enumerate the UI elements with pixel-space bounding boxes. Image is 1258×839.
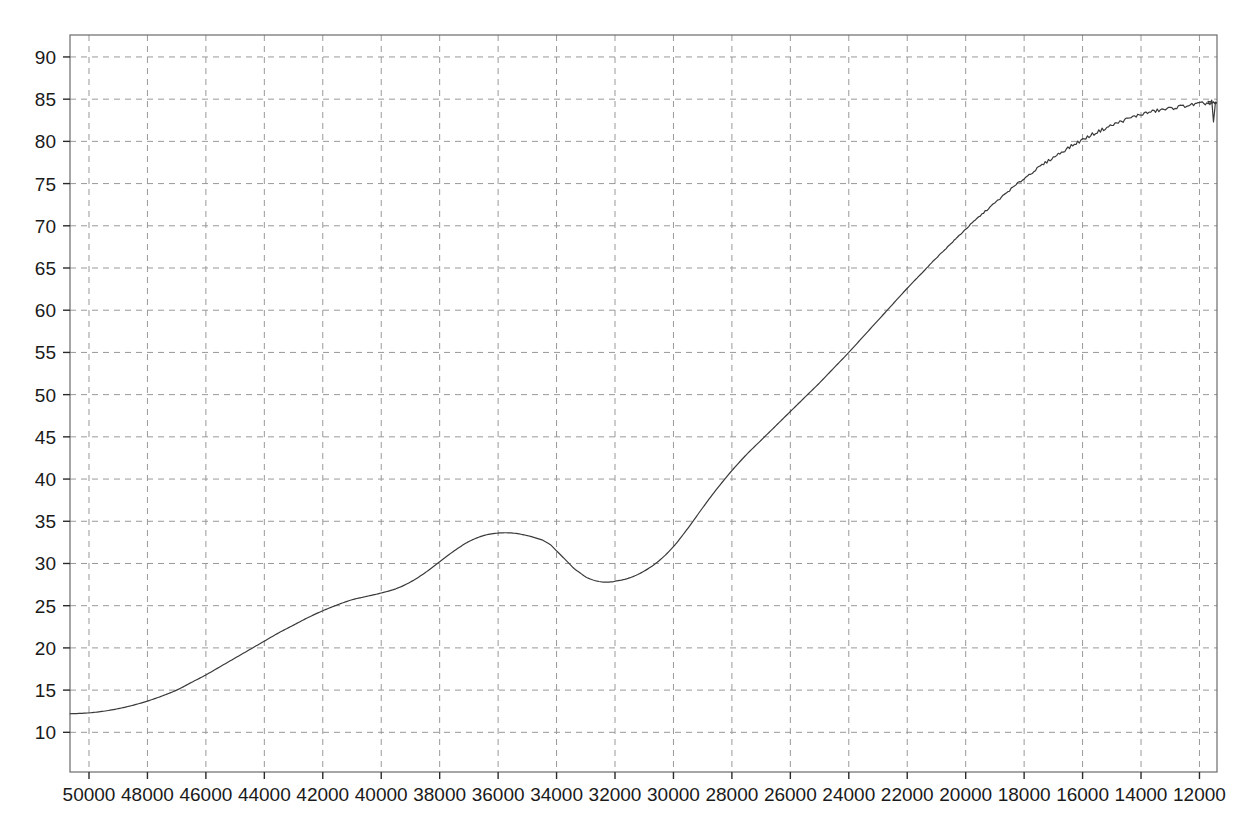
- x-axis-tick-label: 22000: [881, 784, 934, 805]
- y-axis-tick-label: 70: [35, 216, 56, 237]
- y-axis-tick-label: 45: [35, 427, 56, 448]
- y-axis-tick-label: 55: [35, 342, 56, 363]
- y-axis-tick-label: 25: [35, 596, 56, 617]
- x-axis-tick-label: 38000: [413, 784, 466, 805]
- x-axis-tick-label: 30000: [647, 784, 700, 805]
- y-axis-tick-label: 20: [35, 638, 56, 659]
- y-axis-tick-labels: 1015202530354045505560657075808590: [35, 47, 56, 743]
- y-axis-tick-label: 85: [35, 89, 56, 110]
- x-axis-tick-label: 50000: [63, 784, 116, 805]
- spectrum-chart: 1015202530354045505560657075808590 50000…: [0, 0, 1258, 839]
- y-axis-tick-label: 10: [35, 722, 56, 743]
- y-axis-tick-label: 35: [35, 511, 56, 532]
- y-axis-tick-label: 80: [35, 131, 56, 152]
- x-axis-tick-label: 36000: [472, 784, 525, 805]
- x-axis-tick-label: 48000: [121, 784, 174, 805]
- x-axis-tick-label: 18000: [998, 784, 1051, 805]
- x-axis-tick-label: 24000: [822, 784, 875, 805]
- y-axis-tick-label: 90: [35, 47, 56, 68]
- y-axis-tick-label: 75: [35, 174, 56, 195]
- x-axis-tick-label: 40000: [355, 784, 408, 805]
- x-axis-tick-label: 32000: [589, 784, 642, 805]
- y-axis-tick-label: 30: [35, 553, 56, 574]
- y-axis-tick-label: 15: [35, 680, 56, 701]
- x-axis-tick-label: 14000: [1115, 784, 1168, 805]
- x-axis-tick-label: 12000: [1173, 784, 1226, 805]
- chart-page: 1015202530354045505560657075808590 50000…: [0, 0, 1258, 839]
- x-axis-tick-label: 26000: [764, 784, 817, 805]
- x-axis-tick-label: 42000: [296, 784, 349, 805]
- x-axis-tick-label: 44000: [238, 784, 291, 805]
- y-axis-tick-label: 40: [35, 469, 56, 490]
- x-axis-tick-label: 20000: [939, 784, 992, 805]
- y-axis-tick-label: 65: [35, 258, 56, 279]
- x-axis-tick-label: 28000: [705, 784, 758, 805]
- x-axis-tick-label: 46000: [179, 784, 232, 805]
- chart-background: [0, 0, 1258, 839]
- x-axis-tick-label: 16000: [1056, 784, 1109, 805]
- x-axis-tick-label: 34000: [530, 784, 583, 805]
- y-axis-tick-label: 50: [35, 385, 56, 406]
- y-axis-tick-label: 60: [35, 300, 56, 321]
